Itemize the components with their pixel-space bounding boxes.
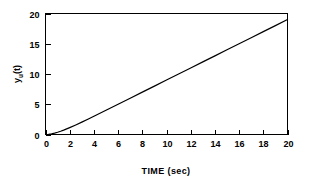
x-tick-label: 16 — [234, 139, 244, 149]
plot-background — [0, 0, 311, 184]
x-tick-label: 4 — [92, 139, 97, 149]
x-tick-label: 8 — [140, 139, 145, 149]
x-tick-label: 10 — [162, 139, 172, 149]
y-tick-label: 0 — [34, 131, 39, 141]
x-tick-label: 2 — [68, 139, 73, 149]
x-tick-label: 0 — [44, 139, 49, 149]
y-tick-label: 10 — [29, 70, 39, 80]
x-tick-label: 12 — [186, 139, 196, 149]
y-axis-title-suffix: (t) — [12, 65, 22, 74]
y-tick-label: 15 — [29, 40, 39, 50]
svg-text:yu(t): yu(t) — [12, 65, 24, 83]
y-tick-label: 5 — [34, 100, 39, 110]
x-tick-label: 6 — [116, 139, 121, 149]
chart-figure: 02468101214161820 05101520 TIME (sec) yu… — [0, 0, 311, 184]
x-axis-title: TIME (sec) — [141, 166, 190, 176]
x-tick-label: 18 — [258, 139, 268, 149]
y-axis-title: yu(t) — [12, 65, 24, 83]
y-tick-label: 20 — [29, 10, 39, 20]
ramp-response-plot: 02468101214161820 05101520 TIME (sec) yu… — [0, 0, 311, 184]
x-tick-label: 20 — [283, 139, 293, 149]
x-tick-label: 14 — [210, 139, 220, 149]
